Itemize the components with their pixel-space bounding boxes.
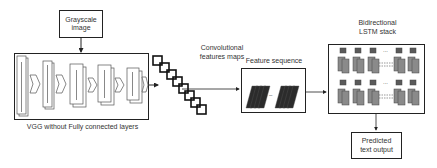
conv-feature-maps [153, 56, 206, 114]
lstm-ellipsis-bottom: ... [383, 79, 388, 85]
feature-sequence-ellipsis: – [269, 92, 273, 98]
lstm-cells [338, 48, 419, 105]
feature-sequence-blocks [246, 86, 299, 108]
vgg-stages [17, 56, 148, 116]
diagram-graphics: – ... ... [0, 0, 437, 168]
lstm-ellipsis-top: ... [383, 47, 388, 53]
